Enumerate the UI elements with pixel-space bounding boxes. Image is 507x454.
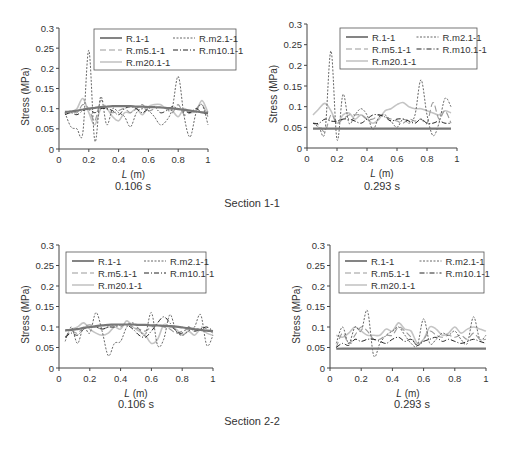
y-axis-title: Stress (MPa) xyxy=(291,285,302,343)
y-tick-label: 0.2 xyxy=(312,281,325,292)
legend-label: R.m20.1-1 xyxy=(371,280,415,291)
legend: R.1-1R.m2.1-1R.m5.1-1R.m10.1-1R.m20.1-1 xyxy=(339,252,490,293)
y-tick-label: 0.15 xyxy=(307,301,326,312)
x-tick-label: 0.8 xyxy=(448,373,461,384)
series-r-m5-1-1 xyxy=(336,327,486,348)
y-tick-label: 0.1 xyxy=(312,322,325,333)
y-tick-label: 0.05 xyxy=(307,342,326,353)
chart-time-caption: 0.293 s xyxy=(392,398,432,410)
legend-label: R.m10.1-1 xyxy=(446,268,490,279)
chart-4: 00.050.10.150.20.250.300.20.40.60.81Stre… xyxy=(0,0,507,454)
series-r-m2-1-1 xyxy=(336,310,486,357)
x-tick-label: 0.6 xyxy=(417,373,430,384)
y-tick-label: 0.3 xyxy=(312,240,325,251)
x-tick-label: 0.2 xyxy=(355,373,368,384)
series-r-m10-1-1 xyxy=(336,337,486,347)
section-label-1: Section 1-1 xyxy=(212,197,292,209)
y-tick-label: 0 xyxy=(320,363,325,374)
legend-label: R.1-1 xyxy=(371,256,394,267)
x-tick-label: 0 xyxy=(327,373,332,384)
section-label-2: Section 2-2 xyxy=(212,415,292,427)
legend-label: R.m5.1-1 xyxy=(371,268,410,279)
legend-label: R.m2.1-1 xyxy=(446,256,485,267)
y-tick-label: 0.25 xyxy=(307,260,326,271)
x-tick-label: 1 xyxy=(483,373,488,384)
x-tick-label: 0.4 xyxy=(386,373,399,384)
